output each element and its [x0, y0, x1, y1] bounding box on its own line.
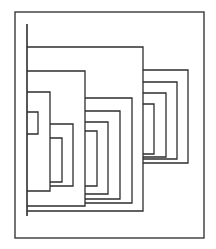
diagram-svg — [0, 0, 216, 249]
bracket-diagram — [0, 0, 216, 249]
diagram-frame — [15, 12, 204, 238]
bracket-mid-4 — [85, 131, 97, 186]
bracket-level5-inner-b — [50, 138, 62, 182]
bracket-right-4 — [143, 104, 154, 154]
bracket-group — [27, 47, 188, 211]
bracket-level3-left — [27, 92, 50, 191]
bracket-level4-small — [27, 112, 38, 134]
